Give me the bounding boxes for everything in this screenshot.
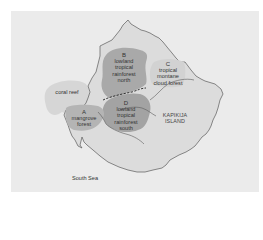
- label-line: tropical: [114, 112, 137, 118]
- label-line: ISLAND: [163, 118, 187, 124]
- label-line: forest: [72, 121, 97, 127]
- label-sea: South Sea: [72, 175, 98, 181]
- label-line: tropical: [112, 64, 135, 70]
- label-region-b: B lowland tropical rainforest north: [112, 52, 135, 83]
- label-line: coral reef: [55, 89, 78, 95]
- label-line: montane: [154, 73, 183, 79]
- label-region-a: A mangrove forest: [72, 109, 97, 128]
- label-line: north: [112, 77, 135, 83]
- label-coral-reef: coral reef: [55, 89, 78, 95]
- label-line: cloud forest: [154, 80, 183, 86]
- label-line: rainforest: [112, 71, 135, 77]
- label-region-d: D lowland tropical rainforest south: [114, 100, 137, 131]
- label-region-c: C tropical montane cloud forest: [154, 61, 183, 86]
- label-line: rainforest: [114, 119, 137, 125]
- label-line: South Sea: [72, 175, 98, 181]
- label-island-name: KAPIKIJA ISLAND: [163, 112, 187, 124]
- label-line: south: [114, 125, 137, 131]
